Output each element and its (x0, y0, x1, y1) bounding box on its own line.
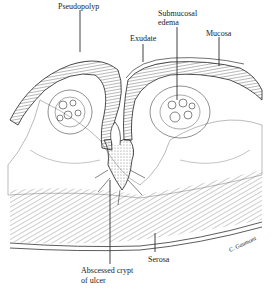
label-serosa: Serosa (148, 255, 169, 264)
label-exudate: Exudate (130, 34, 156, 43)
label-pseudopolyp: Pseudopolyp (58, 2, 99, 11)
label-abscessed-crypt-1: Abscessed crypt (81, 266, 133, 275)
label-mucosa: Mucosa (206, 29, 231, 38)
label-submucosal-edema-2: edema (158, 18, 179, 27)
label-abscessed-crypt-2: of ulcer (81, 276, 106, 285)
ulcerative-colitis-illustration: Pseudopolyp Exudate Submucosal edema Muc… (0, 0, 273, 289)
label-submucosal-edema-1: Submucosal (158, 9, 197, 18)
